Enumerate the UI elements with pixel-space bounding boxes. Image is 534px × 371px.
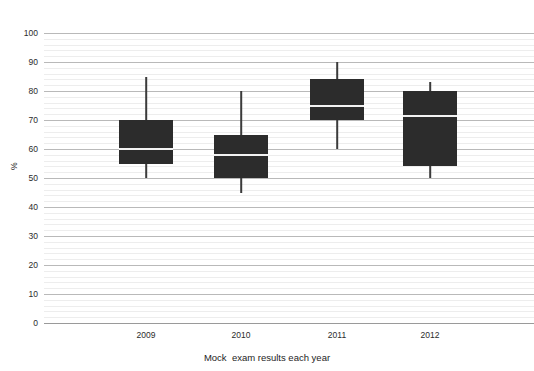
major-gridline — [44, 62, 534, 63]
minor-gridline — [44, 277, 534, 278]
minor-gridline — [44, 132, 534, 133]
minor-gridline — [44, 143, 534, 144]
minor-gridline — [44, 161, 534, 162]
box-plot-2012 — [403, 33, 457, 323]
minor-gridline — [44, 190, 534, 191]
minor-gridline — [44, 248, 534, 249]
major-gridline — [44, 207, 534, 208]
minor-gridline — [44, 155, 534, 156]
y-axis-tick-label: 60 — [29, 144, 38, 154]
minor-gridline — [44, 201, 534, 202]
minor-gridline — [44, 253, 534, 254]
box-iqr-rect — [214, 135, 268, 179]
box-iqr-rect — [119, 120, 173, 164]
major-gridline — [44, 33, 534, 34]
minor-gridline — [44, 306, 534, 307]
major-gridline — [44, 91, 534, 92]
minor-gridline — [44, 39, 534, 40]
y-axis-tick-label: 100 — [24, 28, 38, 38]
major-gridline — [44, 265, 534, 266]
x-axis-tick-label-2009: 2009 — [137, 330, 156, 340]
minor-gridline — [44, 108, 534, 109]
minor-gridline — [44, 97, 534, 98]
y-axis-tick-label: 30 — [29, 231, 38, 241]
box-plot-chart: 0102030405060708090100 % 200920102011201… — [0, 0, 534, 371]
y-axis-tick-label: 90 — [29, 57, 38, 67]
y-axis-tick-label: 20 — [29, 260, 38, 270]
minor-gridline — [44, 166, 534, 167]
major-gridline — [44, 120, 534, 121]
box-iqr-rect — [310, 79, 364, 120]
minor-gridline — [44, 242, 534, 243]
major-gridline — [44, 149, 534, 150]
box-plot-2009 — [119, 33, 173, 323]
box-plot-2010 — [214, 33, 268, 323]
median-line — [403, 115, 457, 117]
minor-gridline — [44, 137, 534, 138]
minor-gridline — [44, 126, 534, 127]
minor-gridline — [44, 259, 534, 260]
y-axis-tick-label: 50 — [29, 173, 38, 183]
median-line — [119, 148, 173, 150]
plot-area: 0102030405060708090100 — [44, 33, 534, 323]
minor-gridline — [44, 56, 534, 57]
x-axis-tick-label-2011: 2011 — [328, 330, 346, 340]
y-axis-tick-label: 10 — [29, 289, 38, 299]
minor-gridline — [44, 230, 534, 231]
x-axis-line — [44, 323, 534, 324]
x-axis-title: Mock exam results each year — [0, 352, 534, 363]
minor-gridline — [44, 213, 534, 214]
minor-gridline — [44, 219, 534, 220]
minor-gridline — [44, 68, 534, 69]
minor-gridline — [44, 300, 534, 301]
minor-gridline — [44, 224, 534, 225]
x-axis-tick-label-2010: 2010 — [232, 330, 251, 340]
minor-gridline — [44, 79, 534, 80]
minor-gridline — [44, 103, 534, 104]
minor-gridline — [44, 271, 534, 272]
y-axis-tick-label: 80 — [29, 86, 38, 96]
minor-gridline — [44, 288, 534, 289]
median-line — [214, 154, 268, 156]
major-gridline — [44, 178, 534, 179]
y-axis-tick-label: 70 — [29, 115, 38, 125]
minor-gridline — [44, 184, 534, 185]
minor-gridline — [44, 45, 534, 46]
minor-gridline — [44, 317, 534, 318]
x-axis-tick-label-2012: 2012 — [421, 330, 440, 340]
y-axis-tick-label: 40 — [29, 202, 38, 212]
box-iqr-rect — [403, 91, 457, 166]
major-gridline — [44, 294, 534, 295]
minor-gridline — [44, 85, 534, 86]
y-axis-tick-label: 0 — [33, 318, 38, 328]
median-line — [310, 105, 364, 107]
major-gridline — [44, 236, 534, 237]
minor-gridline — [44, 282, 534, 283]
minor-gridline — [44, 74, 534, 75]
y-axis-title: % — [9, 162, 19, 170]
minor-gridline — [44, 172, 534, 173]
box-plot-2011 — [310, 33, 364, 323]
minor-gridline — [44, 50, 534, 51]
minor-gridline — [44, 114, 534, 115]
minor-gridline — [44, 311, 534, 312]
minor-gridline — [44, 195, 534, 196]
